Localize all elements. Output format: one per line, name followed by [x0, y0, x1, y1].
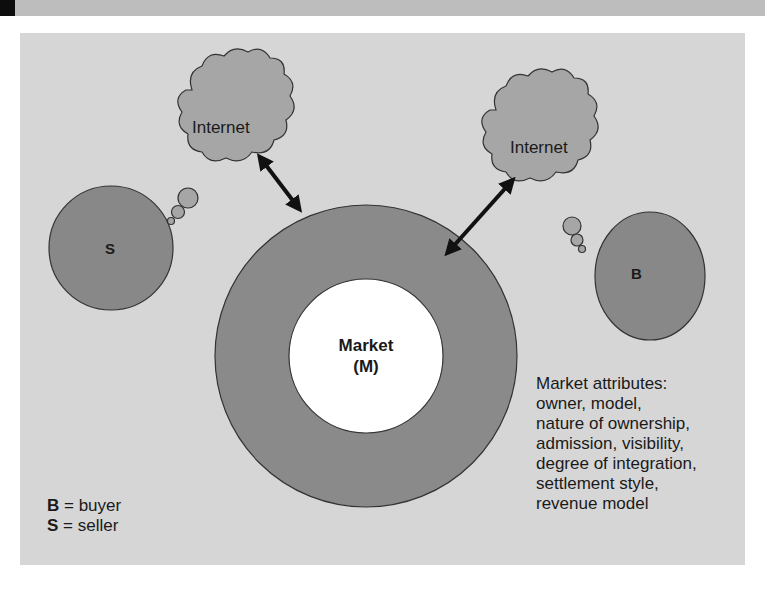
legend-seller-text: = seller [58, 516, 118, 535]
right-internet-cloud [482, 69, 598, 253]
market-label-line1: Market [316, 335, 416, 356]
left-double-arrow-icon [262, 160, 297, 206]
buyer-node [595, 212, 705, 340]
attribute-line: owner, model, [536, 394, 697, 414]
market-label: Market (M) [316, 335, 416, 377]
attributes-heading: Market attributes: [536, 374, 697, 394]
legend-buyer-text: = buyer [59, 496, 121, 515]
left-cloud-label: Internet [192, 118, 250, 138]
seller-label: S [105, 240, 115, 257]
attribute-line: revenue model [536, 494, 697, 514]
market-label-line2: (M) [316, 356, 416, 377]
attribute-line: nature of ownership, [536, 414, 697, 434]
market-attributes: Market attributes: owner, model, nature … [536, 374, 697, 514]
legend-seller: S = seller [47, 516, 121, 536]
legend-buyer: B = buyer [47, 496, 121, 516]
legend: B = buyer S = seller [47, 496, 121, 536]
buyer-label: B [631, 265, 642, 282]
attribute-line: degree of integration, [536, 454, 697, 474]
right-double-arrow-icon [450, 183, 510, 250]
attribute-line: settlement style, [536, 474, 697, 494]
legend-buyer-key: B [47, 496, 59, 515]
right-cloud-label: Internet [510, 138, 568, 158]
legend-seller-key: S [47, 516, 58, 535]
attribute-line: admission, visibility, [536, 434, 697, 454]
